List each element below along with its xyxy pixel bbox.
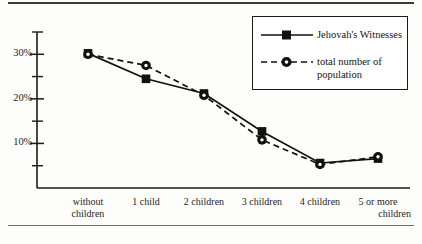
- y-axis-label-2: 30%: [0, 47, 32, 58]
- legend-item-total-population: total number of population: [259, 55, 382, 81]
- data-point-marker-hole: [86, 53, 89, 56]
- data-point-marker-hole: [318, 163, 321, 166]
- data-point-marker-hole: [260, 138, 263, 141]
- x-axis-label-3: 3 children: [229, 196, 295, 208]
- y-axis-label-1: 20%: [0, 92, 32, 103]
- x-axis-label-2: 2 children: [171, 196, 237, 208]
- y-axis-label-0: 10%: [0, 136, 32, 147]
- x-axis-label-5: 5 or morechildren: [345, 196, 411, 220]
- data-point-marker-hole: [202, 94, 205, 97]
- chart-legend: Jehovah's Witnesses total number of popu…: [252, 16, 408, 90]
- chart-figure: 10%20%30% withoutchildren1 child2 childr…: [0, 0, 422, 244]
- x-axis-label-4: 4 children: [287, 196, 353, 208]
- data-point-marker-hole: [144, 64, 147, 67]
- legend-label-0: Jehovah's Witnesses: [315, 28, 402, 41]
- legend-item-jehovahs-witnesses: Jehovah's Witnesses: [259, 28, 402, 42]
- x-axis-label-0: withoutchildren: [55, 196, 121, 220]
- data-point-marker: [258, 127, 267, 136]
- legend-swatch-solid-square-icon: [259, 28, 315, 42]
- data-point-marker: [142, 75, 151, 84]
- legend-swatch-dashed-circle-icon: [259, 55, 315, 69]
- data-point-marker-hole: [376, 155, 379, 158]
- x-axis-label-1: 1 child: [113, 196, 179, 208]
- legend-label-1: total number of population: [315, 55, 382, 81]
